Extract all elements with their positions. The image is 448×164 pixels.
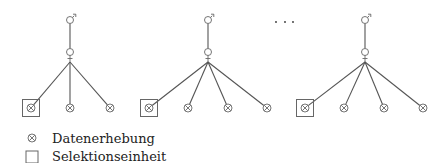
male-icon [205, 14, 214, 23]
pedigree-tree-3 [297, 14, 428, 116]
female-icon [362, 49, 369, 63]
pedigree-tree-1 [23, 14, 115, 116]
legend-label: Datenerhebung [52, 131, 155, 146]
square-icon [26, 151, 38, 163]
male-icon [67, 14, 76, 23]
female-icon [67, 49, 74, 63]
legend-item-selection-unit: Selektionseinheit [26, 149, 167, 164]
data-collection-leaf-icon [263, 104, 271, 112]
sampling-diagram: DatenerhebungSelektionseinheit [0, 0, 448, 163]
ellipsis-icon [275, 21, 294, 23]
male-icon [362, 14, 371, 23]
otimes-icon [28, 134, 36, 142]
data-collection-leaf-icon [145, 104, 153, 112]
legend: DatenerhebungSelektionseinheit [26, 131, 167, 164]
legend-item-data-collection: Datenerhebung [28, 131, 155, 146]
data-collection-leaf-icon [184, 104, 192, 112]
female-icon [205, 49, 212, 63]
data-collection-leaf-icon [340, 104, 348, 112]
data-collection-leaf-icon [301, 104, 309, 112]
data-collection-leaf-icon [106, 104, 114, 112]
data-collection-leaf-icon [27, 104, 35, 112]
pedigree-tree-2 [141, 14, 272, 116]
legend-label: Selektionseinheit [52, 149, 167, 164]
data-collection-leaf-icon [224, 104, 232, 112]
data-collection-leaf-icon [419, 104, 427, 112]
data-collection-leaf-icon [66, 104, 74, 112]
data-collection-leaf-icon [380, 104, 388, 112]
